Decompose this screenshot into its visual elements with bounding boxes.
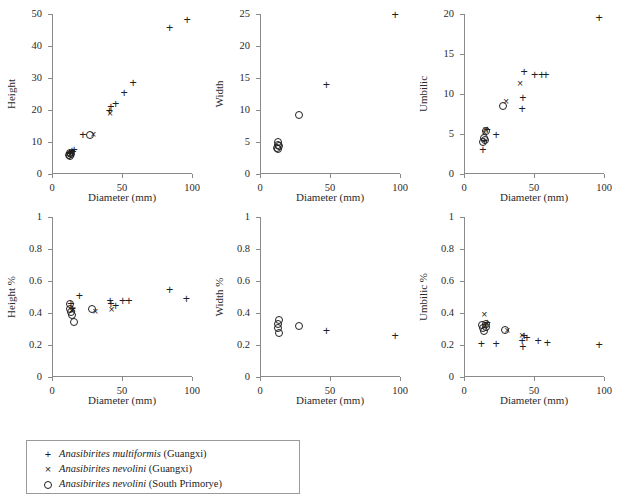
y-axis-tick: 5 (256, 142, 260, 143)
data-point-circle (478, 321, 486, 329)
data-point-plus: + (542, 69, 549, 82)
data-point-plus: + (107, 298, 114, 311)
data-point-plus: + (519, 92, 526, 105)
y-axis-line (52, 14, 53, 174)
y-axis-label: Umbilic (416, 14, 430, 174)
data-point-plus: + (183, 292, 190, 305)
data-point-circle (295, 322, 303, 330)
x-axis-tick: 100 (604, 174, 605, 178)
y-axis-tick-label: 0.2 (237, 340, 250, 351)
data-point-circle (66, 305, 74, 313)
y-axis-tick-label: 5 (245, 137, 250, 148)
data-point-circle (66, 152, 74, 160)
cross-marker-icon: × (37, 463, 59, 475)
data-point-cross: × (481, 126, 487, 137)
y-axis-tick: 1 (256, 217, 260, 218)
plot-area: 05101520050100+++++++++++×××× (464, 14, 604, 174)
y-axis-tick: 0.6 (256, 281, 260, 282)
data-point-plus: + (595, 12, 602, 25)
y-axis-tick-label: 0.8 (237, 244, 250, 255)
y-axis-tick: 5 (460, 134, 464, 135)
data-point-circle (70, 318, 78, 326)
y-axis-tick-label: 0.4 (237, 308, 250, 319)
data-point-plus: + (535, 335, 542, 348)
species-name: Anasibirites multiformis (59, 448, 161, 459)
x-axis-tick: 0 (260, 174, 261, 178)
data-point-circle (499, 102, 507, 110)
data-point-circle (482, 320, 490, 328)
data-point-plus: + (67, 148, 74, 161)
data-point-plus: + (391, 9, 398, 22)
data-point-circle (86, 131, 94, 139)
data-point-plus: + (120, 87, 127, 100)
locality-name: (Guangxi) (163, 448, 206, 459)
x-axis-tick: 50 (122, 174, 123, 178)
data-point-plus: + (112, 300, 119, 313)
y-axis-tick: 10 (48, 142, 52, 143)
y-axis-tick: 10 (256, 110, 260, 111)
data-point-circle (501, 326, 509, 334)
plot-area: 00.20.40.60.81050100++++++++++×××× (52, 217, 192, 377)
data-point-circle (67, 308, 75, 316)
y-axis-tick: 30 (48, 78, 52, 79)
y-axis-tick: 0.4 (48, 313, 52, 314)
y-axis-tick-label: 5 (449, 129, 454, 140)
y-axis-tick-label: 0.8 (441, 244, 454, 255)
data-point-circle (480, 134, 488, 142)
data-point-plus: + (538, 69, 545, 82)
y-axis-tick: 0.8 (460, 249, 464, 250)
data-point-circle (275, 329, 283, 337)
data-point-plus: + (478, 338, 485, 351)
y-axis-tick-label: 1 (245, 212, 250, 223)
data-point-plus: + (183, 14, 190, 27)
data-point-circle (66, 149, 74, 157)
y-axis-tick-label: 20 (32, 105, 43, 116)
y-axis-tick: 0.2 (460, 345, 464, 346)
data-point-plus: + (481, 135, 488, 148)
y-axis-label: Width (212, 14, 226, 174)
y-axis-line (464, 14, 465, 174)
x-axis-tick: 50 (534, 377, 535, 381)
data-point-plus: + (107, 101, 114, 114)
y-axis-tick: 15 (460, 54, 464, 55)
data-point-plus: + (68, 145, 75, 158)
data-point-plus: + (493, 129, 500, 142)
x-axis-tick: 0 (52, 174, 53, 178)
data-point-plus: + (106, 295, 113, 308)
y-axis-tick-label: 0.6 (29, 276, 42, 287)
y-axis-tick-label: 0.6 (237, 276, 250, 287)
data-point-circle (274, 138, 282, 146)
x-axis-tick: 0 (464, 377, 465, 381)
data-point-plus: + (166, 22, 173, 35)
legend-item-label: Anasibirites nevolini (Guangxi) (59, 463, 192, 474)
x-axis-label: Diameter (mm) (260, 394, 400, 406)
x-axis-tick: 0 (52, 377, 53, 381)
y-axis-label: Umbilic % (416, 217, 430, 377)
data-point-plus: + (323, 79, 330, 92)
data-point-circle (88, 305, 96, 313)
data-point-circle (273, 144, 281, 152)
panel-grid: Height01020304050050100+++++++++++++××××… (0, 0, 629, 410)
y-axis-line (260, 14, 261, 174)
data-point-cross: × (483, 124, 489, 135)
x-axis-tick: 50 (534, 174, 535, 178)
data-point-plus: + (69, 303, 76, 316)
y-axis-tick: 20 (256, 46, 260, 47)
data-point-cross: × (69, 305, 75, 316)
data-point-plus: + (66, 147, 73, 160)
x-axis-tick: 100 (192, 174, 193, 178)
y-axis-tick: 1 (48, 217, 52, 218)
data-point-plus: + (595, 339, 602, 352)
data-point-cross: × (504, 325, 510, 336)
data-point-plus: + (483, 317, 490, 330)
y-axis-tick: 15 (256, 78, 260, 79)
data-point-cross: × (90, 128, 96, 139)
y-axis-tick-label: 0 (37, 372, 42, 383)
legend-item: Anasibirites nevolini (South Primorye) (27, 476, 299, 491)
panel-height-vs-diameter: Height01020304050050100+++++++++++++××××… (2, 0, 211, 205)
y-axis-tick-label: 0.4 (441, 308, 454, 319)
y-axis-tick-label: 20 (240, 41, 251, 52)
data-point-circle (67, 150, 75, 158)
legend-item-label: Anasibirites multiformis (Guangxi) (59, 448, 207, 459)
data-point-plus: + (519, 340, 526, 353)
